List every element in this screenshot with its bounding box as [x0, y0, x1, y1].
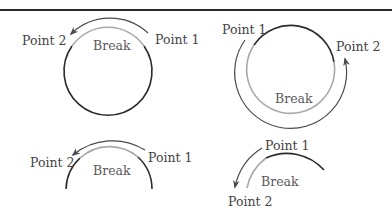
arc-segment [266, 153, 324, 170]
point-1-label: Point 1 [148, 150, 192, 165]
break-diagram: Point 2 Point 1 Break Point 1 Point 2 Br… [0, 0, 392, 215]
panel-full-circle-long-break: Point 1 Point 2 Break [222, 22, 380, 128]
point-1-label: Point 1 [155, 32, 199, 47]
direction-arrow-icon [73, 141, 145, 155]
panel-partial-arc-short-break: Point 2 Point 1 Break [30, 141, 192, 189]
panel-partial-arc-end-break: Point 1 Point 2 Break [228, 138, 324, 209]
break-arc [80, 147, 138, 158]
break-label: Break [93, 163, 131, 178]
break-label: Break [93, 38, 131, 53]
circle-segment [64, 46, 152, 115]
panel-full-circle-short-break: Point 2 Point 1 Break [22, 18, 199, 115]
break-label: Break [275, 91, 313, 106]
point-2-label: Point 2 [22, 33, 66, 48]
direction-arrow-icon [71, 18, 148, 34]
point-2-label: Point 2 [30, 155, 74, 170]
point-1-label: Point 1 [222, 22, 266, 37]
point-2-label: Point 2 [336, 39, 380, 54]
direction-arrow-icon [235, 40, 347, 128]
point-1-label: Point 1 [265, 138, 309, 153]
point-2-label: Point 2 [228, 194, 272, 209]
break-label: Break [261, 174, 299, 189]
